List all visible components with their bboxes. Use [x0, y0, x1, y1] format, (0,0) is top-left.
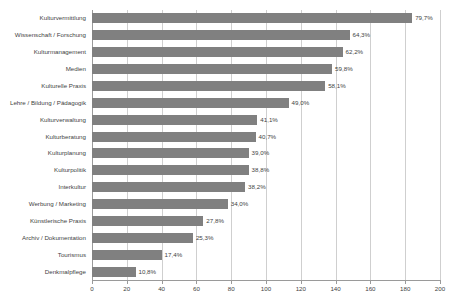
- x-tick-label: 200: [435, 285, 445, 292]
- x-tick-label: 160: [365, 285, 375, 292]
- bar-row: Denkmalpflege10,8%: [0, 263, 459, 281]
- bar[interactable]: [92, 233, 193, 243]
- bar[interactable]: [92, 64, 332, 74]
- category-label: Kulturelle Praxis: [0, 82, 86, 90]
- bar-row: Werbung / Marketing34,0%: [0, 195, 459, 213]
- x-tick-mark: [370, 281, 371, 284]
- category-label: Kulturmanagement: [0, 48, 86, 56]
- x-tick-label: 20: [123, 285, 130, 292]
- bar-row: Kulturberatung40,7%: [0, 128, 459, 146]
- x-tick-mark: [440, 281, 441, 284]
- x-tick-mark: [162, 281, 163, 284]
- bar-value-label: 25,3%: [196, 233, 214, 243]
- bar-value-label: 27,8%: [206, 216, 224, 226]
- category-label: Kulturplanung: [0, 149, 86, 157]
- x-axis-ticks: 020406080100120140160180200: [92, 281, 440, 299]
- bar-value-label: 62,2%: [346, 47, 364, 57]
- bar-row: Kulturverwaltung41,1%: [0, 111, 459, 129]
- bar-row: Kulturplanung39,0%: [0, 144, 459, 162]
- bar-row: Archiv / Dokumentation25,3%: [0, 229, 459, 247]
- x-tick-mark: [301, 281, 302, 284]
- bar-value-label: 79,7%: [415, 13, 433, 23]
- bar-row: Tourismus17,4%: [0, 246, 459, 264]
- category-label: Werbung / Marketing: [0, 200, 86, 208]
- category-label: Archiv / Dokumentation: [0, 234, 86, 242]
- x-tick-mark: [92, 281, 93, 284]
- bar[interactable]: [92, 13, 412, 23]
- bar[interactable]: [92, 199, 228, 209]
- category-label: Kulturverwaltung: [0, 116, 86, 124]
- bar[interactable]: [92, 148, 249, 158]
- bar-value-label: 41,1%: [260, 115, 278, 125]
- bar[interactable]: [92, 132, 256, 142]
- category-label: Interkultur: [0, 183, 86, 191]
- bar-row: Lehre / Bildung / Pädagogik49,0%: [0, 94, 459, 112]
- bar-value-label: 64,3%: [353, 30, 371, 40]
- x-tick-label: 100: [261, 285, 271, 292]
- bar[interactable]: [92, 216, 203, 226]
- category-label: Kulturberatung: [0, 133, 86, 141]
- bar-value-label: 38,8%: [252, 165, 270, 175]
- category-label: Künstlerische Praxis: [0, 217, 86, 225]
- bar-row: Kulturvermittlung79,7%: [0, 9, 459, 27]
- bar-row: Künstlerische Praxis27,8%: [0, 212, 459, 230]
- x-tick-mark: [336, 281, 337, 284]
- bar-value-label: 10,8%: [139, 267, 157, 277]
- bar[interactable]: [92, 250, 162, 260]
- bar-value-label: 40,7%: [259, 132, 277, 142]
- x-tick-mark: [196, 281, 197, 284]
- x-tick-mark: [231, 281, 232, 284]
- bar-value-label: 49,0%: [292, 98, 310, 108]
- x-tick-label: 60: [193, 285, 200, 292]
- bar-row: Kulturpolitik38,8%: [0, 161, 459, 179]
- bar-value-label: 34,0%: [231, 199, 249, 209]
- bar-row: Kulturelle Praxis58,1%: [0, 77, 459, 95]
- category-label: Tourismus: [0, 251, 86, 259]
- bar-value-label: 38,2%: [248, 182, 266, 192]
- bar-chart: Kulturvermittlung79,7%Wissenschaft / For…: [0, 0, 459, 300]
- bar-row: Wissenschaft / Forschung64,3%: [0, 26, 459, 44]
- bar[interactable]: [92, 182, 245, 192]
- bar[interactable]: [92, 165, 249, 175]
- category-label: Denkmalpflege: [0, 268, 86, 276]
- bar[interactable]: [92, 115, 257, 125]
- x-tick-label: 180: [400, 285, 410, 292]
- x-tick-mark: [266, 281, 267, 284]
- category-label: Lehre / Bildung / Pädagogik: [0, 99, 86, 107]
- x-tick-label: 140: [330, 285, 340, 292]
- bar-row: Interkultur38,2%: [0, 178, 459, 196]
- bar[interactable]: [92, 98, 289, 108]
- bar-value-label: 58,1%: [328, 81, 346, 91]
- category-label: Wissenschaft / Forschung: [0, 31, 86, 39]
- bar-row: Medien59,8%: [0, 60, 459, 78]
- bar-value-label: 17,4%: [165, 250, 183, 260]
- x-tick-label: 80: [228, 285, 235, 292]
- bar-rows: Kulturvermittlung79,7%Wissenschaft / For…: [0, 10, 459, 280]
- bar[interactable]: [92, 81, 325, 91]
- x-tick-mark: [405, 281, 406, 284]
- category-label: Kulturpolitik: [0, 166, 86, 174]
- category-label: Kulturvermittlung: [0, 14, 86, 22]
- bar[interactable]: [92, 47, 343, 57]
- bar-value-label: 59,8%: [335, 64, 353, 74]
- x-tick-label: 120: [296, 285, 306, 292]
- bar-value-label: 39,0%: [252, 148, 270, 158]
- bar[interactable]: [92, 30, 350, 40]
- bar[interactable]: [92, 267, 136, 277]
- x-tick-label: 40: [158, 285, 165, 292]
- bar-row: Kulturmanagement62,2%: [0, 43, 459, 61]
- x-tick-mark: [127, 281, 128, 284]
- category-label: Medien: [0, 65, 86, 73]
- x-tick-label: 0: [90, 285, 93, 292]
